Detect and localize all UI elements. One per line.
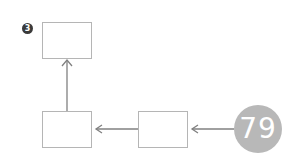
counter-circle: 79	[234, 105, 282, 153]
bottom-middle-box	[138, 111, 188, 148]
flow-diagram: 3 79	[0, 0, 299, 163]
step-number-badge: 3	[22, 23, 33, 34]
top-box	[42, 22, 92, 59]
bottom-left-box	[42, 111, 92, 148]
